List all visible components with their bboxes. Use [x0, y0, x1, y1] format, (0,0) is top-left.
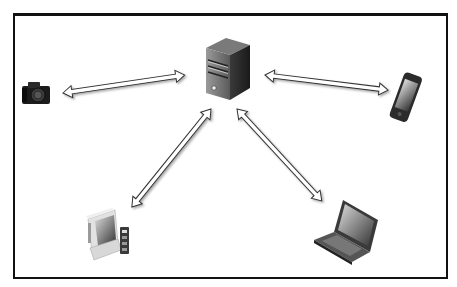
arrow-server-desktop [127, 105, 215, 211]
arrow-server-laptop [233, 105, 327, 205]
arrow-server-phone [264, 69, 389, 96]
diagram-canvas [0, 0, 457, 287]
desktop-computer-icon [86, 208, 129, 260]
smartphone-icon [389, 71, 423, 123]
laptop-icon [314, 200, 378, 265]
server-icon [206, 38, 250, 100]
camera-icon [22, 82, 50, 104]
arrow-camera-server [62, 69, 185, 99]
